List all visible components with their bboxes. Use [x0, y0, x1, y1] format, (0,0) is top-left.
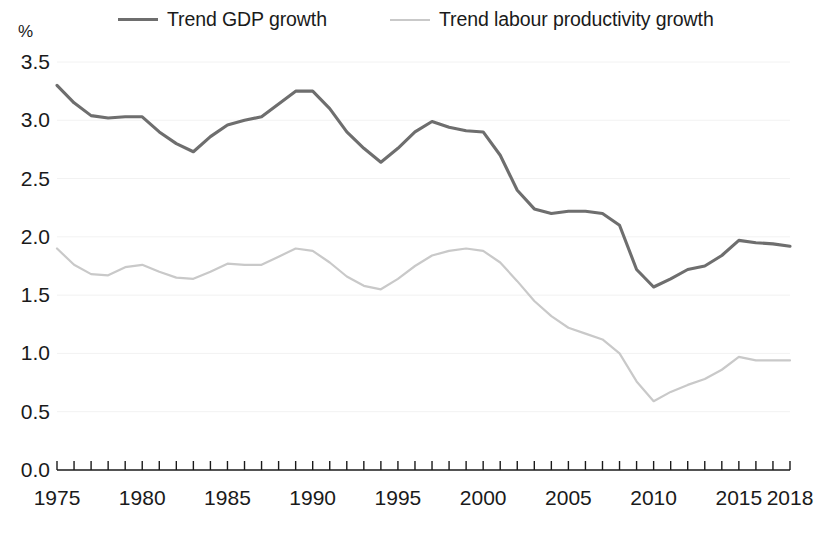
chart-plot-area: [0, 0, 831, 542]
chart-gridlines: [57, 62, 790, 412]
x-axis-line-and-ticks: [57, 461, 790, 470]
series-line: [57, 249, 790, 402]
chart-figure: Trend GDP growth Trend labour productivi…: [0, 0, 831, 542]
series-line: [57, 85, 790, 287]
